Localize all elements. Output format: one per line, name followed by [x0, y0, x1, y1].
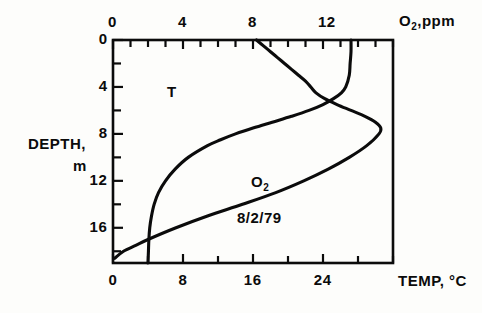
oxygen-tick-label: 4	[178, 13, 187, 30]
measurement-date-label: 8/2/79	[237, 209, 282, 226]
temperature-axis-ticks	[113, 254, 393, 263]
temperature-tick-label: 16	[244, 271, 262, 288]
oxygen-axis-title-rest: ,ppm	[417, 12, 455, 29]
temperature-tick-label: 24	[314, 271, 332, 288]
oxygen-curve-label: O2	[251, 173, 269, 193]
temperature-axis-title: TEMP, °C	[398, 272, 467, 289]
oxygen-tick-label: 8	[248, 13, 257, 30]
oxygen-tick-label: 0	[108, 13, 117, 30]
depth-axis-title-line2: m	[73, 157, 87, 174]
depth-tick-label: 0	[99, 30, 108, 47]
temperature-curve	[148, 40, 351, 263]
depth-axis-ticks	[113, 40, 123, 251]
depth-tick-label: 4	[99, 77, 108, 94]
depth-tick-label: 8	[99, 124, 108, 141]
depth-tick-label: 16	[90, 218, 108, 235]
oxygen-tick-label: 12	[318, 13, 336, 30]
temperature-curve-label: T	[167, 83, 177, 100]
depth-axis-title-line1: DEPTH,	[28, 135, 86, 152]
oxygen-curve-label-sub: 2	[263, 182, 269, 193]
oxygen-axis-title: O2,ppm	[399, 12, 455, 32]
oxygen-curve-label-base: O	[251, 173, 263, 190]
oxygen-axis-title-base: O	[399, 12, 411, 29]
depth-tick-label: 12	[90, 171, 108, 188]
depth-profile-figure: O2,ppm TEMP, °C DEPTH, m T O2 8/2/79 048…	[0, 0, 482, 313]
temperature-tick-label: 8	[178, 271, 187, 288]
temperature-tick-label: 0	[108, 271, 117, 288]
